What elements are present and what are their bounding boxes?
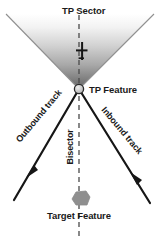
label-target-feature: Target Feature [47, 211, 111, 221]
tp-sector-cone [6, 14, 154, 89]
outbound-arrowhead [26, 165, 38, 178]
inbound-arrowhead [130, 172, 142, 185]
tp-feature-node [74, 84, 83, 93]
label-bisector: Bisector [66, 129, 75, 164]
label-tp-feature: TP Feature [89, 85, 137, 95]
label-tp-sector: TP Sector [62, 6, 105, 16]
diagram-canvas [0, 0, 168, 241]
tp-sector-diagram: TP Sector TP Feature Outbound track Inbo… [0, 0, 168, 241]
target-feature-polygon [72, 191, 90, 205]
